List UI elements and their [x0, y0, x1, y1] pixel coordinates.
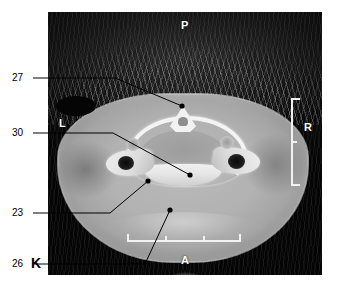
orientation-marker-anterior: A	[181, 255, 189, 266]
right-facet-joint	[220, 136, 234, 149]
ct-image-frame: P L R A	[48, 12, 322, 275]
figure-panel-letter: K	[31, 256, 41, 270]
figure-page: P L R A 27 30 23 26 K	[0, 0, 339, 288]
orientation-marker-left: L	[59, 118, 66, 129]
vertical-scale-bar-tick	[291, 141, 297, 143]
horizontal-scale-bar	[127, 234, 241, 242]
orientation-marker-right: R	[304, 122, 312, 133]
horizontal-scale-bar-tick	[165, 236, 167, 242]
horizontal-scale-bar-tick	[203, 236, 205, 242]
callout-label-27: 27	[12, 73, 23, 83]
left-transverse-foramen	[118, 156, 134, 170]
left-facet-joint	[126, 138, 140, 151]
right-transverse-foramen	[228, 154, 245, 169]
left-body-notch	[56, 96, 96, 116]
callout-label-23: 23	[12, 208, 23, 218]
spinous-process-marrow	[178, 117, 188, 126]
callout-label-30: 30	[12, 128, 23, 138]
vertebra-structure	[120, 106, 246, 192]
orientation-marker-posterior: P	[181, 20, 189, 31]
callout-label-26: 26	[12, 259, 23, 269]
